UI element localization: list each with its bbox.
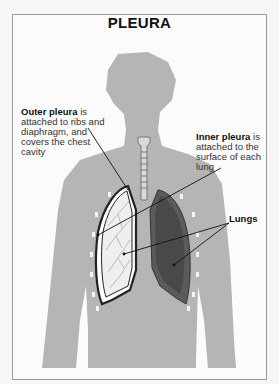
inner-pleura-label: Inner pleura is attached to the surface …	[196, 132, 271, 172]
body-illustration	[0, 0, 279, 384]
body-silhouette	[42, 52, 236, 368]
lungs-label: Lungs	[229, 214, 258, 224]
outer-pleura-label: Outer pleura is attached to ribs and dia…	[21, 107, 111, 157]
